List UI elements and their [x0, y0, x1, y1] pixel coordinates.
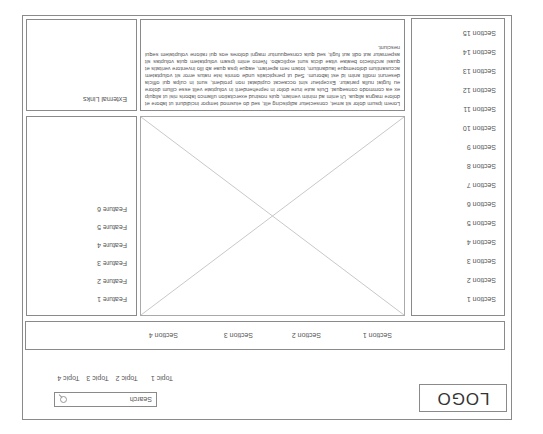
sidebar-item-10[interactable]: Section 10: [463, 125, 496, 132]
sidebar-item-1[interactable]: Section 1: [467, 296, 496, 303]
feature-item-6[interactable]: Feature 6: [97, 206, 127, 213]
nav-topic-4[interactable]: Topic 4: [57, 375, 79, 382]
search-icon[interactable]: [59, 396, 67, 404]
feature-item-5[interactable]: Feature 5: [97, 224, 127, 231]
external-links-panel: External Links: [26, 19, 137, 111]
sidebar-item-12[interactable]: Section 12: [463, 87, 496, 94]
sidebar-item-3[interactable]: Section 3: [467, 258, 496, 265]
feature-item-3[interactable]: Feature 3: [97, 260, 127, 267]
body-text: Lorem ipsum dolor sit amet, consectetur …: [140, 19, 405, 111]
sidebar: Section 1 Section 2 Section 3 Section 4 …: [411, 18, 505, 316]
tab-section-1[interactable]: Section 1: [363, 332, 392, 339]
search-input[interactable]: Search: [54, 392, 157, 407]
image-placeholder-cross-icon: [141, 117, 404, 315]
sidebar-item-8[interactable]: Section 8: [467, 163, 496, 170]
feature-item-4[interactable]: Feature 4: [97, 242, 127, 249]
nav-topic-2[interactable]: Topic 2: [116, 375, 138, 382]
sidebar-item-9[interactable]: Section 9: [467, 144, 496, 151]
feature-item-2[interactable]: Feature 2: [97, 278, 127, 285]
sidebar-item-4[interactable]: Section 4: [467, 239, 496, 246]
sidebar-item-13[interactable]: Section 13: [463, 68, 496, 75]
sidebar-item-7[interactable]: Section 7: [467, 182, 496, 189]
sidebar-item-14[interactable]: Section 14: [463, 49, 496, 56]
nav-topic-1[interactable]: Topic 1: [151, 375, 173, 382]
image-placeholder: [140, 116, 405, 316]
sidebar-item-6[interactable]: Section 6: [467, 201, 496, 208]
section-tab-bar: Section 1 Section 2 Section 3 Section 4: [25, 321, 505, 350]
sidebar-item-5[interactable]: Section 5: [467, 220, 496, 227]
sidebar-item-11[interactable]: Section 11: [463, 106, 496, 113]
tab-section-3[interactable]: Section 3: [224, 332, 253, 339]
tab-section-2[interactable]: Section 2: [292, 332, 321, 339]
tab-section-4[interactable]: Section 4: [149, 332, 178, 339]
sidebar-item-2[interactable]: Section 2: [467, 277, 496, 284]
logo[interactable]: LOGO: [419, 384, 507, 412]
features-panel: Feature 1 Feature 2 Feature 3 Feature 4 …: [26, 116, 137, 316]
external-links-label[interactable]: External Links: [83, 96, 127, 103]
wireframe-page: LOGO Topic 1 Topic 2 Topic 3 Topic 4 Sea…: [0, 0, 543, 434]
nav-topic-3[interactable]: Topic 3: [86, 375, 108, 382]
search-placeholder: Search: [130, 396, 152, 403]
sidebar-item-15[interactable]: Section 15: [463, 30, 496, 37]
feature-item-1[interactable]: Feature 1: [97, 296, 127, 303]
top-nav: Topic 1 Topic 2 Topic 3 Topic 4: [57, 375, 173, 382]
